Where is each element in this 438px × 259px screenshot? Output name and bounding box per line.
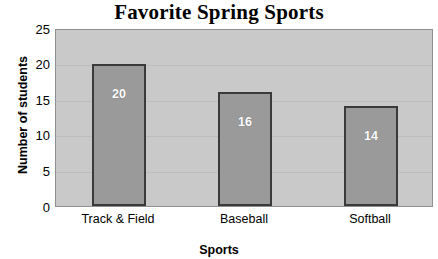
y-axis-tick-label: 20 <box>24 58 50 71</box>
x-axis-title: Sports <box>0 243 438 257</box>
bar: 20 <box>92 64 146 206</box>
bar: 14 <box>344 106 398 206</box>
y-axis-tick-label: 10 <box>24 129 50 142</box>
bar-value-label: 16 <box>220 116 270 129</box>
y-axis-tick-labels: 0510152025 <box>20 29 50 207</box>
bar-value-label: 14 <box>346 130 396 143</box>
chart-title: Favorite Spring Sports <box>0 0 438 25</box>
y-axis-tick-label: 15 <box>24 94 50 107</box>
bar-chart: Favorite Spring Sports Number of student… <box>0 0 438 259</box>
y-axis-tick-label: 25 <box>24 23 50 36</box>
x-axis-tick-label: Track & Field <box>55 212 181 227</box>
x-axis-tick-label: Baseball <box>181 212 307 227</box>
y-axis-tick-label: 0 <box>24 201 50 214</box>
bar-value-label: 20 <box>94 88 144 101</box>
x-axis-tick-label: Softball <box>307 212 433 227</box>
y-axis-tick-label: 5 <box>24 165 50 178</box>
plot-area: 201614 <box>55 29 433 207</box>
bar: 16 <box>218 92 272 206</box>
